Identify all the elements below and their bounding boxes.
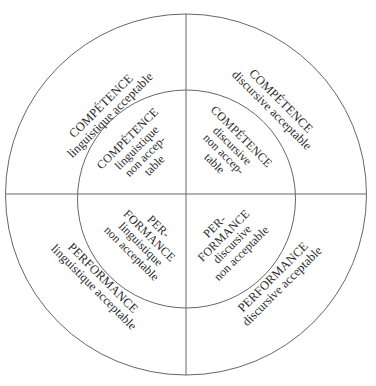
competence-performance-diagram: COMPÉTENCE linguistique acceptable COMPÉ… <box>0 0 376 386</box>
circle-diagram-lines <box>0 0 376 386</box>
